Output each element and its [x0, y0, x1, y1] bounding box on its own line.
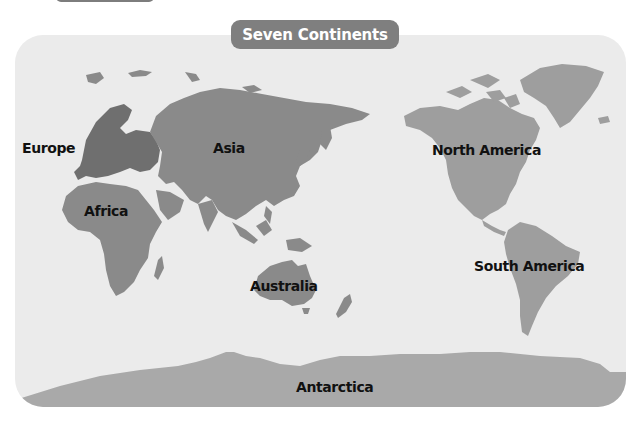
madagascar-shape: [154, 256, 164, 280]
africa-shape: [62, 182, 162, 296]
central-america-shape: [482, 220, 506, 236]
label-australia: Australia: [250, 278, 318, 294]
label-asia: Asia: [213, 140, 245, 156]
south-america-shape: [504, 222, 580, 336]
tasmania-shape: [302, 308, 310, 314]
label-europe: Europe: [22, 140, 75, 156]
label-south-america: South America: [474, 258, 584, 274]
north-america-shape: [404, 98, 540, 220]
label-antarctica: Antarctica: [296, 379, 373, 395]
arctic-islands: [86, 70, 262, 93]
label-africa: Africa: [84, 203, 128, 219]
new-zealand-shape: [336, 294, 352, 318]
europe-shape: [74, 104, 160, 180]
map-title-pill: Seven Continents: [231, 20, 399, 49]
iceland-shape: [598, 116, 610, 124]
map-title: Seven Continents: [242, 26, 388, 44]
label-north-america: North America: [432, 142, 541, 158]
arabia-shape: [156, 190, 184, 220]
